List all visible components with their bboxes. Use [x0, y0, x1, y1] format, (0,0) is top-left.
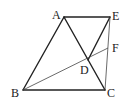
label-c: C	[107, 86, 115, 100]
label-e: E	[112, 9, 119, 23]
label-d: D	[80, 63, 89, 77]
segment-ed	[88, 17, 110, 60]
label-b: B	[11, 86, 19, 100]
segment-ab	[23, 17, 64, 90]
geometry-diagram: A E F D B C	[0, 0, 126, 102]
segment-bf	[23, 48, 108, 90]
segment-ec	[105, 17, 110, 90]
label-a: A	[52, 8, 61, 22]
label-f: F	[112, 41, 119, 55]
segment-ac	[64, 17, 105, 90]
